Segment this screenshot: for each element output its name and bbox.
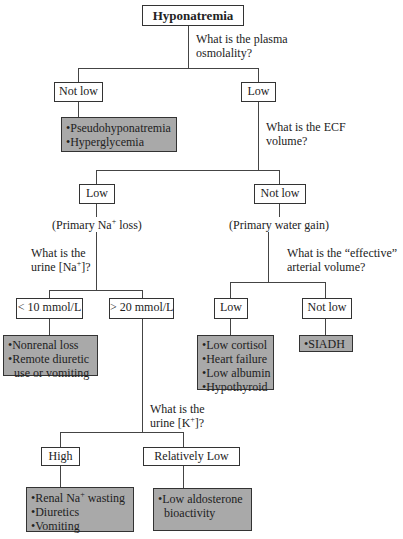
connector (230, 282, 326, 283)
q-text: urine [Na (31, 260, 77, 274)
cause-item: Hypothyroid (202, 380, 269, 394)
note-text: loss) (116, 218, 142, 232)
connector (78, 68, 79, 82)
cause-item: Low albumin (202, 366, 269, 380)
leaf-osm-not-low-causes: Pseudohyponatremia Hyperglycemia (61, 117, 177, 152)
cause-item: SIADH (304, 337, 348, 351)
connector (258, 101, 259, 170)
question-line: urine [K+]? (150, 416, 205, 430)
node-osm-not-low: Not low (54, 82, 103, 102)
connector (325, 282, 326, 298)
leaf-eav-low-causes: Low cortisol Heart failure Low albumin H… (197, 335, 274, 390)
connector (96, 232, 97, 290)
leaf-urine-k-high-causes: Renal Na+ wasting Diuretics Vomiting (26, 487, 134, 532)
cause-item-continuation: bioactivity (158, 506, 247, 520)
connector (183, 465, 184, 488)
root-node-hyponatremia: Hyponatremia (142, 5, 244, 26)
question-line: What is the (150, 402, 205, 416)
cause-item: Pseudohyponatremia (66, 121, 172, 135)
node-urine-k-relatively-low: Relatively Low (143, 447, 240, 466)
q-text: ]? (195, 416, 204, 430)
note-primary-na-loss: (Primary Na+ loss) (51, 218, 143, 232)
connector (49, 290, 50, 298)
connector (258, 68, 259, 82)
node-urine-k-high: High (41, 447, 80, 466)
node-ecf-not-low: Not low (254, 184, 306, 204)
node-urine-na-low: < 10 mmol/L (16, 298, 83, 319)
question-line: urine [Na+]? (31, 260, 91, 274)
cause-item: Low aldosterone (158, 492, 247, 506)
note-primary-water-gain: (Primary water gain) (228, 218, 330, 232)
connector (279, 170, 280, 184)
cause-text: wasting (85, 491, 125, 505)
cause-item: Nonrenal loss (8, 338, 93, 352)
question-line: arterial volume? (287, 260, 397, 274)
cause-item: Heart failure (202, 352, 269, 366)
node-eav-low: Low (214, 298, 248, 319)
question-urine-k: What is the urine [K+]? (150, 402, 205, 430)
q-text: ]? (81, 260, 90, 274)
connector (230, 282, 231, 298)
connector (188, 26, 189, 68)
cause-item: Hyperglycemia (66, 135, 172, 149)
connector (142, 290, 143, 298)
connector (60, 432, 61, 447)
connector (268, 232, 269, 282)
connector (142, 318, 143, 432)
node-urine-na-high: > 20 mmol/L (109, 298, 174, 319)
node-ecf-low: Low (79, 184, 115, 204)
question-line: What is the ECF (266, 120, 346, 134)
cause-item: Remote diuretic (8, 352, 93, 366)
cause-item: Vomiting (31, 519, 129, 533)
q-text: urine [K (150, 416, 190, 430)
connector (183, 432, 184, 447)
node-osm-low: Low (241, 82, 276, 102)
connector (230, 318, 231, 335)
question-line: What is the plasma (196, 32, 288, 46)
question-urine-na: What is the urine [Na+]? (31, 246, 91, 274)
note-text: (Primary Na (52, 218, 112, 232)
node-eav-not-low: Not low (302, 298, 352, 319)
connector (78, 68, 259, 69)
question-plasma-osmolality: What is the plasma osmolality? (196, 32, 288, 60)
leaf-urine-na-low-causes: Nonrenal loss Remote diuretic use or vom… (3, 335, 98, 376)
cause-item: Low cortisol (202, 338, 269, 352)
connector (60, 432, 184, 433)
question-effective-arterial-volume: What is the “effective” arterial volume? (287, 246, 397, 274)
question-line: volume? (266, 134, 346, 148)
connector (96, 170, 97, 184)
connector (49, 290, 143, 291)
cause-text: Renal Na (35, 491, 80, 505)
question-line: osmolality? (196, 46, 288, 60)
connector (96, 203, 97, 217)
connector (60, 465, 61, 487)
connector (49, 318, 50, 335)
connector (325, 318, 326, 335)
question-line: What is the “effective” (287, 246, 397, 260)
connector (279, 203, 280, 217)
cause-item: Renal Na+ wasting (31, 491, 129, 505)
question-line: What is the (31, 246, 91, 260)
connector (78, 101, 79, 117)
cause-item-continuation: use or vomiting (8, 366, 93, 380)
leaf-eav-not-low-causes: SIADH (299, 335, 353, 352)
leaf-urine-k-low-causes: Low aldosterone bioactivity (153, 488, 252, 531)
question-ecf-volume: What is the ECF volume? (266, 120, 346, 148)
connector (96, 170, 280, 171)
cause-item: Diuretics (31, 505, 129, 519)
